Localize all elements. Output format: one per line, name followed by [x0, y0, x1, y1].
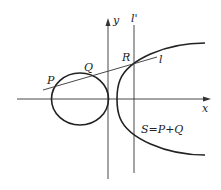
secant-line-l: [43, 57, 157, 90]
y-axis-arrow-icon: [106, 18, 111, 26]
x-axis-arrow-icon: [203, 97, 211, 102]
point-q-label: Q: [84, 61, 93, 74]
elliptic-curve-diagram: x y l' l P Q R S=P+Q: [0, 0, 221, 190]
x-axis-label: x: [202, 102, 209, 115]
y-axis-label: y: [112, 14, 120, 27]
x-axis: [17, 97, 211, 102]
point-p-label: P: [46, 74, 55, 87]
vertical-line-label: l': [131, 12, 138, 25]
secant-line-label: l: [159, 53, 163, 66]
point-r-label: R: [121, 51, 130, 64]
sum-annotation: S=P+Q: [141, 123, 183, 136]
